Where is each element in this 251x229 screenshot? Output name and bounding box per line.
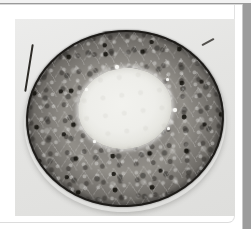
vacuole-1	[115, 65, 119, 69]
vacuole-3	[173, 108, 177, 112]
specimen-cross-section	[26, 30, 224, 207]
page-gutter	[243, 4, 251, 229]
figure-plate	[15, 19, 235, 216]
document-viewport	[0, 0, 251, 229]
document-page	[0, 5, 235, 223]
figure-microscopy-section[interactable]	[15, 19, 235, 216]
